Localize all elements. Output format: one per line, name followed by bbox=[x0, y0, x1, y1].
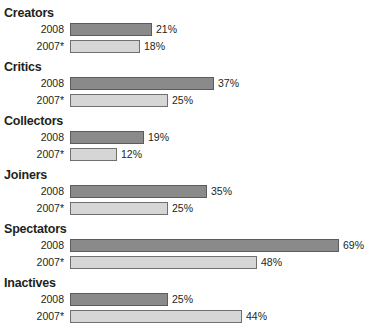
bar-value-label: 37% bbox=[214, 76, 239, 91]
bar bbox=[70, 131, 144, 144]
bar-row-label: 2007* bbox=[0, 39, 64, 54]
bar-track: 48% bbox=[70, 255, 373, 270]
bar-row-label: 2007* bbox=[0, 201, 64, 216]
bar-value-label: 69% bbox=[339, 238, 364, 253]
bar-group-title: Collectors bbox=[0, 114, 373, 129]
bar-value-label: 35% bbox=[207, 184, 232, 199]
bar-group: Collectors200819%2007*12% bbox=[0, 114, 373, 162]
bar-value-label: 19% bbox=[144, 130, 169, 145]
bar-value-label: 21% bbox=[152, 22, 177, 37]
bar-row-label: 2008 bbox=[0, 130, 64, 145]
bar-group-title: Critics bbox=[0, 60, 373, 75]
bar bbox=[70, 310, 242, 323]
bar-track: 69% bbox=[70, 238, 373, 253]
bar-row-label: 2008 bbox=[0, 76, 64, 91]
bar-row-label: 2008 bbox=[0, 22, 64, 37]
bar-row: 2007*25% bbox=[0, 201, 373, 216]
bar-row-label: 2007* bbox=[0, 147, 64, 162]
bar bbox=[70, 293, 168, 306]
bar-row: 200835% bbox=[0, 184, 373, 199]
bar-group: Spectators200869%2007*48% bbox=[0, 222, 373, 270]
bar-group-title: Joiners bbox=[0, 168, 373, 183]
bar-track: 19% bbox=[70, 130, 373, 145]
bar-row-label: 2007* bbox=[0, 255, 64, 270]
bar-row: 2007*44% bbox=[0, 309, 373, 324]
bar-track: 12% bbox=[70, 147, 373, 162]
bar bbox=[70, 202, 168, 215]
bar-value-label: 48% bbox=[257, 255, 282, 270]
bar-row-label: 2008 bbox=[0, 238, 64, 253]
bar-value-label: 44% bbox=[242, 309, 267, 324]
bar-row: 2007*48% bbox=[0, 255, 373, 270]
bar bbox=[70, 77, 214, 90]
bar-track: 35% bbox=[70, 184, 373, 199]
bar-value-label: 18% bbox=[140, 39, 165, 54]
bar bbox=[70, 148, 117, 161]
bar-track: 25% bbox=[70, 93, 373, 108]
bar-value-label: 25% bbox=[168, 201, 193, 216]
bar bbox=[70, 94, 168, 107]
bar bbox=[70, 239, 339, 252]
bar bbox=[70, 23, 152, 36]
bar-group-title: Inactives bbox=[0, 276, 373, 291]
bar-group: Creators200821%2007*18% bbox=[0, 6, 373, 54]
bar-row: 200819% bbox=[0, 130, 373, 145]
bar-group: Critics200837%2007*25% bbox=[0, 60, 373, 108]
bar-row: 2007*12% bbox=[0, 147, 373, 162]
bar-value-label: 25% bbox=[168, 93, 193, 108]
bar-track: 21% bbox=[70, 22, 373, 37]
bar bbox=[70, 256, 257, 269]
bar-group-title: Spectators bbox=[0, 222, 373, 237]
bar-row: 2007*18% bbox=[0, 39, 373, 54]
bar-group-title: Creators bbox=[0, 6, 373, 21]
bar-group: Joiners200835%2007*25% bbox=[0, 168, 373, 216]
bar-row-label: 2008 bbox=[0, 292, 64, 307]
bar bbox=[70, 40, 140, 53]
bar-row-label: 2007* bbox=[0, 93, 64, 108]
bar-row: 200869% bbox=[0, 238, 373, 253]
bar-row-label: 2008 bbox=[0, 184, 64, 199]
bar-track: 18% bbox=[70, 39, 373, 54]
bar-value-label: 25% bbox=[168, 292, 193, 307]
bar-row-label: 2007* bbox=[0, 309, 64, 324]
bar-track: 44% bbox=[70, 309, 373, 324]
bar-value-label: 12% bbox=[117, 147, 142, 162]
bar-track: 25% bbox=[70, 201, 373, 216]
bar-row: 200821% bbox=[0, 22, 373, 37]
bar-track: 37% bbox=[70, 76, 373, 91]
bar-group: Inactives200825%2007*44% bbox=[0, 276, 373, 324]
bar bbox=[70, 185, 207, 198]
bar-row: 200837% bbox=[0, 76, 373, 91]
bar-row: 2007*25% bbox=[0, 93, 373, 108]
bar-track: 25% bbox=[70, 292, 373, 307]
bar-row: 200825% bbox=[0, 292, 373, 307]
